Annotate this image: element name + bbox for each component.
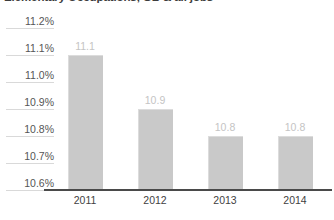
y-axis-tick: 10.7% xyxy=(6,150,54,164)
y-axis-tick: 11.2% xyxy=(6,15,54,29)
bar[interactable] xyxy=(208,136,243,191)
bar[interactable] xyxy=(68,55,103,191)
x-axis-line xyxy=(44,189,332,191)
y-axis-tick: 10.9% xyxy=(6,96,54,110)
bar-value-label: 10.8 xyxy=(265,121,325,133)
bar-value-label: 10.8 xyxy=(195,121,255,133)
x-axis-tick: 2011 xyxy=(55,194,115,206)
plot-area: 11.2% 11.1% 11.0% 10.9% 10.8% 10.7% 10.6… xyxy=(0,0,334,220)
x-axis-tick: 2013 xyxy=(195,194,255,206)
y-axis-tick: 11.1% xyxy=(6,42,54,56)
bar[interactable] xyxy=(138,109,173,191)
bar[interactable] xyxy=(278,136,313,191)
x-axis-tick: 2012 xyxy=(125,194,185,206)
bar-chart: Elementary Occupations, GB & all jobs 11… xyxy=(0,0,334,220)
bar-value-label: 10.9 xyxy=(125,94,185,106)
bar-value-label: 11.1 xyxy=(55,40,115,52)
y-axis-tick: 11.0% xyxy=(6,69,54,83)
x-axis-tick: 2014 xyxy=(265,194,325,206)
y-axis-tick: 10.8% xyxy=(6,123,54,137)
